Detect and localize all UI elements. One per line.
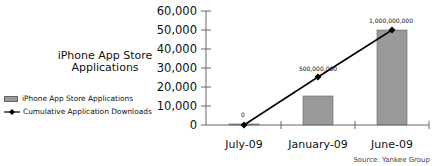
data-label: 1,000,000,000 [369, 17, 413, 24]
bar-june-09 [377, 30, 407, 125]
y-tick-label: 0 [190, 118, 197, 132]
x-tick-label: January-09 [287, 138, 347, 151]
y-tick-label: 10,000 [157, 99, 197, 113]
bar-january-09 [303, 96, 333, 125]
y-tick-label: 60,000 [157, 4, 197, 18]
plot-area: 60,000 50,000 40,000 30,000 20,000 10,00… [0, 0, 432, 166]
x-tick-label: July-09 [224, 138, 263, 151]
y-tick-label: 30,000 [157, 61, 197, 75]
data-label: 0 [241, 111, 245, 118]
data-label: 500,000,000 [299, 65, 337, 72]
source-note: Source: Yankee Group [353, 156, 430, 164]
y-tick-label: 50,000 [157, 23, 197, 37]
y-tick-label: 20,000 [157, 80, 197, 94]
y-tick-label: 40,000 [157, 42, 197, 56]
x-tick-label: June-09 [370, 138, 413, 151]
